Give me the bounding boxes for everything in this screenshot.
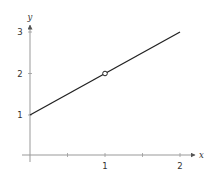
x-tick-label-1: 1 bbox=[102, 161, 107, 171]
x-tick-label-2: 2 bbox=[177, 161, 182, 171]
x-axis: 1 2 x bbox=[22, 150, 204, 171]
y-tick-label-1: 1 bbox=[17, 110, 22, 120]
y-tick-label-2: 2 bbox=[17, 69, 22, 79]
y-axis: 1 2 3 y bbox=[17, 12, 32, 162]
chart: 1 2 x 1 2 3 y bbox=[0, 0, 212, 183]
y-tick-label-3: 3 bbox=[17, 27, 22, 37]
y-axis-label: y bbox=[27, 12, 33, 22]
open-circle-marker bbox=[103, 71, 108, 76]
series-line bbox=[30, 32, 180, 115]
x-axis-label: x bbox=[199, 150, 204, 160]
